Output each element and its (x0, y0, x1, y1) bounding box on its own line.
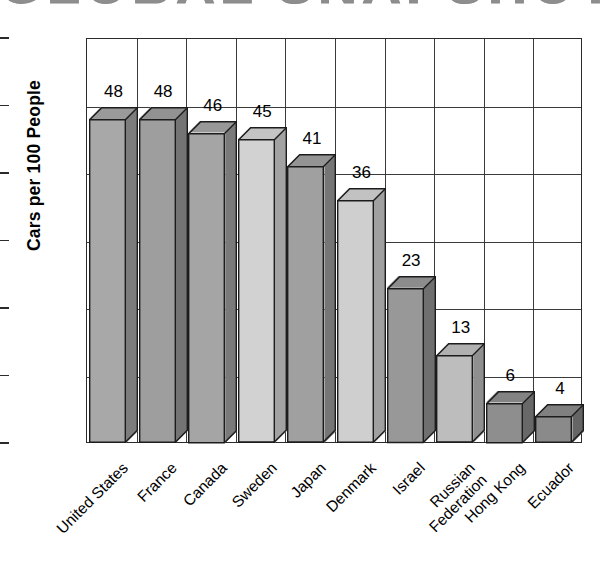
x-axis-labels: United StatesFranceCanadaSwedenJapanDenm… (0, 0, 607, 581)
